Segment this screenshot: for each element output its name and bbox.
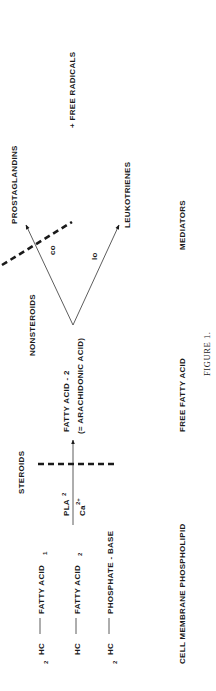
row2-label: FATTY ACID <box>73 565 82 614</box>
co-label: co <box>48 245 57 255</box>
row1-prefix-sub: 2 <box>43 660 49 664</box>
phospholipid-row-3: HC 2 PHOSPHATE - BASE <box>106 530 118 664</box>
lipoxygenase-arrow <box>73 225 119 325</box>
stage-free-fatty-acid: FREE FATTY ACID <box>178 358 187 432</box>
lo-label: lo <box>90 252 99 260</box>
enzyme-fraction: PLA 2 Ca 2+ <box>61 440 87 525</box>
row3-prefix-sub: 2 <box>112 660 118 664</box>
enzyme-numerator-sub: 2 <box>61 492 67 496</box>
row1-label-sub: 1 <box>42 551 48 555</box>
row2-label-sub: 2 <box>77 552 83 556</box>
enzyme-numerator: PLA <box>62 499 71 516</box>
arachidonic-acid-label: (= ARACHIDONIC ACID) <box>76 338 85 434</box>
fatty-acid-2-label: FATTY ACID - 2 <box>62 370 71 432</box>
figure-canvas: HC 2 FATTY ACID 1 HC FATTY ACID 2 HC 2 P… <box>0 0 216 691</box>
phospholipid-row-1: HC 2 FATTY ACID 1 <box>37 551 49 664</box>
figure-caption: FIGURE 1. <box>202 331 212 376</box>
prostaglandins-label: PROSTAGLANDINS <box>10 145 19 224</box>
row1-prefix: HC <box>37 643 46 655</box>
steroids-label: STEROIDS <box>17 450 26 494</box>
row1-label: FATTY ACID <box>37 565 46 614</box>
enzyme-denominator: Ca <box>78 505 87 516</box>
stage-mediators: MEDIATORS <box>178 200 187 250</box>
leukotrienes-label: LEUKOTRIENES <box>123 161 132 228</box>
nonsteroids-label: NONSTEROIDS <box>28 294 37 356</box>
row2-prefix: HC <box>73 643 82 655</box>
pathway-diagram: HC 2 FATTY ACID 1 HC FATTY ACID 2 HC 2 P… <box>0 0 216 691</box>
row3-prefix: HC <box>106 643 115 655</box>
free-radicals-label: + FREE RADICALS <box>68 51 77 128</box>
stage-cell-membrane-phospholipid: CELL MEMBRANE PHOSPHOLIPID <box>178 523 187 664</box>
phospholipid-row-2: HC FATTY ACID 2 <box>73 552 83 655</box>
row3-label: PHOSPHATE - BASE <box>106 530 115 614</box>
enzyme-denominator-sup: 2+ <box>75 498 81 505</box>
nonsteroids-block-line <box>2 222 72 265</box>
